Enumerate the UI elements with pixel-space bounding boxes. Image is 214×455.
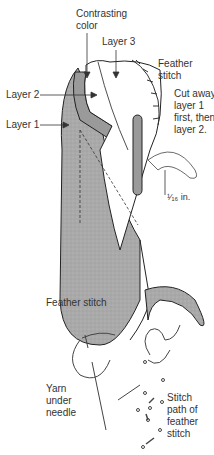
label-layer1: Layer 1 [6, 119, 39, 131]
label-feather-stitch-title: Feather stitch [46, 297, 107, 309]
label-contrasting-color: Contrasting color [76, 8, 127, 32]
label-feather-stitch: Feather stitch [158, 58, 192, 82]
label-stitch-path: Stitch path of feather stitch [167, 392, 198, 440]
label-layer3: Layer 3 [102, 36, 135, 48]
label-measurement: ¹⁄₁₆ in. [167, 191, 190, 203]
cut-strip [145, 287, 204, 326]
cut-flap [148, 152, 197, 178]
slot [133, 115, 142, 195]
label-cut-away: Cut away layer 1 first, then layer 2. [174, 88, 214, 136]
label-yarn-under-needle: Yarn under needle [46, 383, 76, 419]
label-layer2: Layer 2 [6, 89, 39, 101]
